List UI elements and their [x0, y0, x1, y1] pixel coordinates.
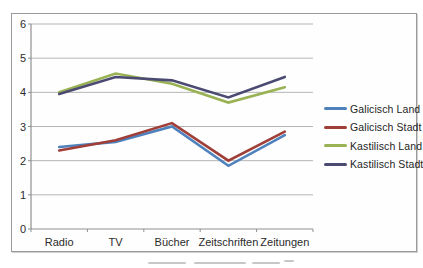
legend-label: Kastilisch Stadt: [350, 158, 423, 170]
chart-legend: Galicisch Land Galicisch Stadt Kastilisc…: [324, 102, 416, 171]
cut-off-caption-fragment: [148, 260, 318, 265]
legend-label: Galicisch Land: [350, 103, 420, 115]
legend-line-swatch: [324, 107, 347, 110]
legend-item-galicisch-land: Galicisch Land: [324, 102, 416, 116]
legend-line-swatch: [324, 126, 347, 129]
y-tick-label: 4: [12, 85, 26, 99]
legend-line-swatch: [324, 144, 347, 147]
chart-frame: 6 5 4 3 2 1 0 Radio TV Bücher Zeitschrif…: [11, 13, 417, 252]
legend-item-galicisch-stadt: Galicisch Stadt: [324, 121, 416, 135]
y-tick-label: 1: [12, 188, 26, 202]
y-tick-label: 2: [12, 154, 26, 168]
y-tick-label: 5: [12, 51, 26, 65]
y-tick-label: 6: [12, 17, 26, 31]
x-category-label: Zeitschriften: [196, 235, 260, 249]
legend-item-kastilisch-land: Kastilisch Land: [324, 139, 416, 153]
legend-line-swatch: [324, 163, 347, 166]
x-category-label: Radio: [27, 235, 91, 249]
legend-label: Galicisch Stadt: [350, 121, 422, 133]
y-tick-label: 3: [12, 120, 26, 134]
x-category-label: Bücher: [140, 235, 204, 249]
legend-label: Kastilisch Land: [350, 140, 422, 152]
y-tick-label: 0: [12, 222, 26, 236]
x-category-label: TV: [84, 235, 148, 249]
legend-item-kastilisch-stadt: Kastilisch Stadt: [324, 158, 416, 172]
x-category-label: Zeitungen: [253, 235, 317, 249]
